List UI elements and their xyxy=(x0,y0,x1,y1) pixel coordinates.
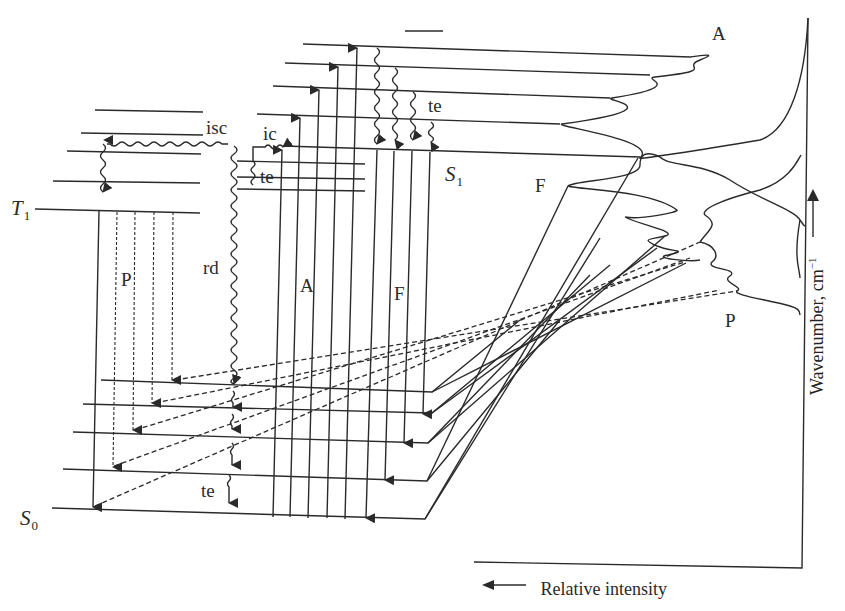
label-fluorescence: F xyxy=(394,284,405,303)
left-arrow-icon xyxy=(482,575,528,593)
te-wavy-s1 xyxy=(375,48,434,144)
spectra xyxy=(474,18,808,568)
y-axis-exponent: −1 xyxy=(806,258,818,270)
s0-subscript: 0 xyxy=(32,518,39,533)
label-t1: T1 xyxy=(11,198,30,219)
fluorescence-connectors xyxy=(425,158,686,519)
upper-levels xyxy=(237,161,365,191)
up-arrow-icon xyxy=(803,189,824,239)
label-fluorescence-spectrum: F xyxy=(535,176,546,195)
label-te-mid: te xyxy=(260,167,274,186)
fluorescence-spectrum xyxy=(568,154,805,261)
label-phosphorescence: P xyxy=(121,270,132,289)
label-ic: ic xyxy=(263,124,277,143)
label-te-bottom: te xyxy=(201,481,215,500)
y-axis-label: Wavenumber, cm−1 xyxy=(806,189,828,395)
absorption-spectrum xyxy=(561,18,808,158)
label-s0: S0 xyxy=(20,508,38,529)
jablonski-diagram xyxy=(0,0,845,611)
s1-symbol: S xyxy=(445,162,456,186)
label-te-top: te xyxy=(428,96,442,115)
label-absorption: A xyxy=(300,276,314,295)
label-absorption-spectrum: A xyxy=(712,24,726,43)
phosphorescence-connectors xyxy=(95,242,737,506)
label-rd: rd xyxy=(203,258,219,277)
t1-symbol: T xyxy=(11,196,23,220)
fluorescence-arrows xyxy=(366,150,430,518)
s1-subscript: 1 xyxy=(457,174,464,189)
y-axis-text: Wavenumber, cm xyxy=(807,269,827,395)
label-isc: isc xyxy=(206,118,227,137)
t1-subscript: 1 xyxy=(24,208,31,223)
x-axis-label: Relative intensity xyxy=(482,580,667,598)
label-phosphorescence-spectrum: P xyxy=(725,311,736,330)
s0-symbol: S xyxy=(20,506,31,530)
spectrum-frame xyxy=(474,18,808,568)
absorption-arrows xyxy=(273,48,357,519)
phosphorescence-arrows xyxy=(93,211,173,507)
label-s1: S1 xyxy=(445,164,463,185)
x-axis-text: Relative intensity xyxy=(541,579,667,599)
rd-wavy xyxy=(231,146,237,384)
t1-levels xyxy=(35,110,203,213)
s1-levels xyxy=(257,44,690,157)
